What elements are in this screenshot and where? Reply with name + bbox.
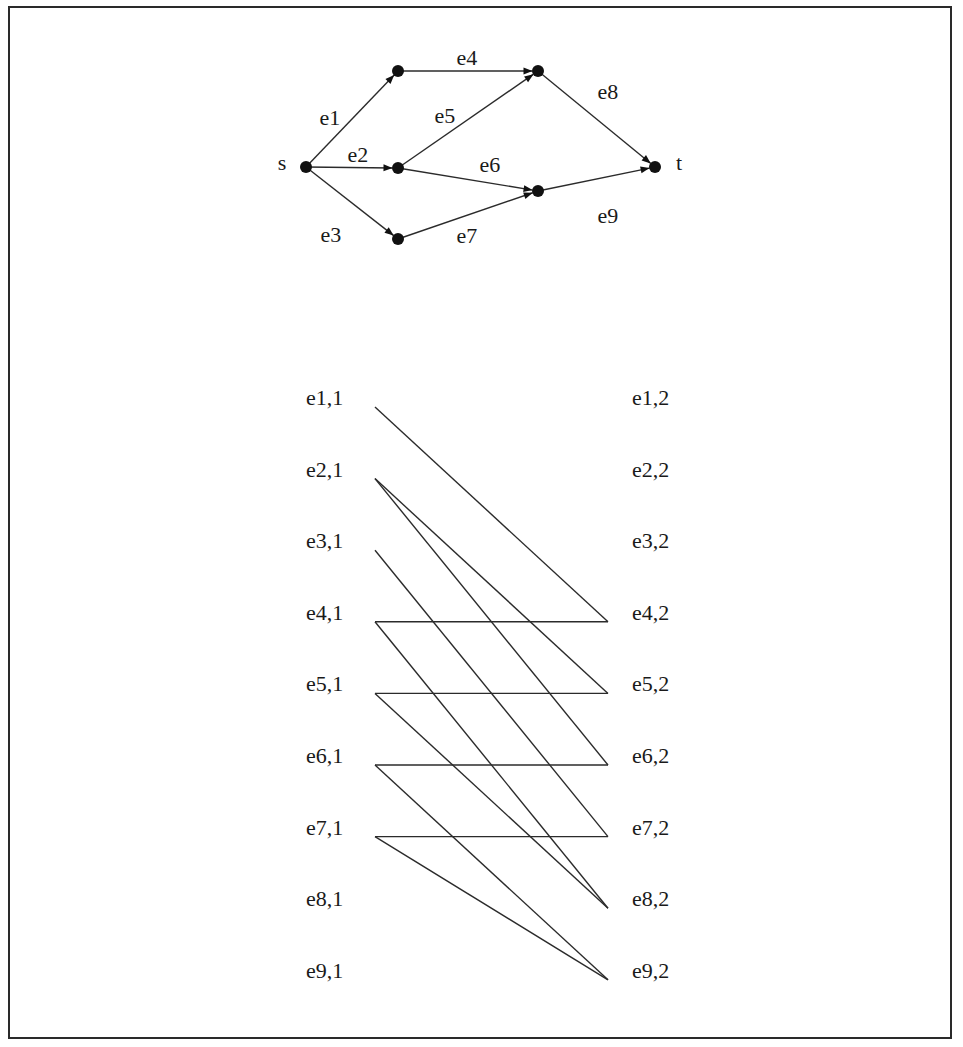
flow-network-graph: e1e2e3e4e5e6e7e8e9st — [278, 45, 682, 248]
link-e7-1-to-e9-2 — [375, 837, 608, 980]
left-vertex-label: e9,1 — [306, 958, 343, 983]
edge-e3 — [306, 167, 394, 236]
right-vertex-label: e2,2 — [632, 457, 669, 482]
left-vertex-label: e6,1 — [306, 743, 343, 768]
arrowhead-icon — [384, 227, 393, 235]
edge-e2 — [306, 167, 393, 168]
arrowhead-icon — [640, 166, 650, 173]
left-vertex-label: e1,1 — [306, 385, 343, 410]
link-e1-1-to-e4-2 — [375, 407, 608, 622]
node-label-t: t — [676, 150, 682, 175]
edge-label-e3: e3 — [321, 222, 342, 247]
node-s — [300, 161, 312, 173]
right-vertex-label: e5,2 — [632, 671, 669, 696]
edge-label-e8: e8 — [598, 79, 619, 104]
edge-e5 — [398, 74, 533, 168]
node-D — [532, 185, 544, 197]
arrowhead-icon — [524, 74, 533, 82]
right-vertex-label: e8,2 — [632, 886, 669, 911]
left-vertex-label: e3,1 — [306, 528, 343, 553]
left-vertex-label: e2,1 — [306, 457, 343, 482]
arrowhead-icon — [524, 68, 533, 75]
right-vertex-label: e4,2 — [632, 600, 669, 625]
edge-e9 — [538, 168, 650, 191]
node-B — [532, 65, 544, 77]
node-t — [649, 161, 661, 173]
right-vertex-label: e6,2 — [632, 743, 669, 768]
arrowhead-icon — [523, 185, 532, 192]
left-vertex-label: e7,1 — [306, 815, 343, 840]
edge-label-e4: e4 — [457, 45, 478, 70]
link-e6-1-to-e9-2 — [375, 765, 608, 980]
arrowhead-icon — [383, 164, 392, 171]
node-label-s: s — [278, 150, 287, 175]
left-vertex-label: e8,1 — [306, 886, 343, 911]
right-vertex-label: e9,2 — [632, 958, 669, 983]
node-C — [392, 162, 404, 174]
edge-label-e1: e1 — [320, 105, 341, 130]
arrowhead-icon — [523, 192, 533, 199]
right-vertex-label: e3,2 — [632, 528, 669, 553]
edge-label-e9: e9 — [598, 203, 619, 228]
left-vertex-label: e4,1 — [306, 600, 343, 625]
edge-e6 — [398, 168, 533, 190]
right-vertex-label: e7,2 — [632, 815, 669, 840]
link-e5-1-to-e8-2 — [375, 693, 608, 908]
node-A — [392, 65, 404, 77]
link-e2-1-to-e5-2 — [375, 479, 608, 694]
node-E — [392, 233, 404, 245]
edge-label-e5: e5 — [435, 103, 456, 128]
edge-label-e2: e2 — [348, 142, 369, 167]
figure-canvas: e1e2e3e4e5e6e7e8e9st e1,1e2,1e3,1e4,1e5,… — [0, 0, 963, 1047]
edge-e8 — [538, 71, 651, 164]
edge-bipartite-graph: e1,1e2,1e3,1e4,1e5,1e6,1e7,1e8,1e9,1e1,2… — [306, 385, 669, 983]
right-vertex-label: e1,2 — [632, 385, 669, 410]
edge-label-e6: e6 — [480, 152, 501, 177]
left-vertex-label: e5,1 — [306, 671, 343, 696]
edge-label-e7: e7 — [457, 223, 478, 248]
